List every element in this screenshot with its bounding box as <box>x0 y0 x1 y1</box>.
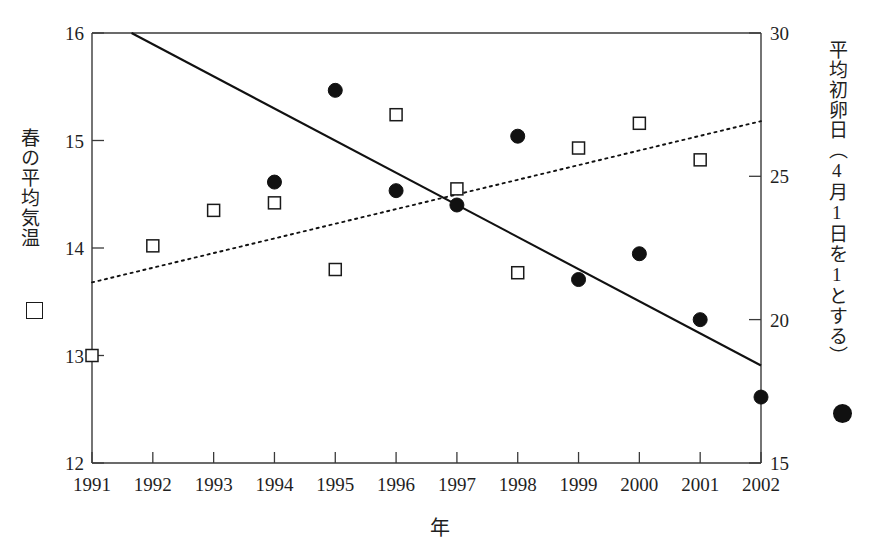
data-point-s0-2000 <box>633 117 645 129</box>
trendline-solid <box>132 33 761 366</box>
filled-circle-icon <box>833 404 852 423</box>
plot-frame <box>92 33 761 463</box>
x-tick-label-1996: 1996 <box>377 474 415 495</box>
data-point-s0-1995 <box>329 264 341 276</box>
left-tick-label-13: 13 <box>65 346 84 367</box>
data-point-s1-1997 <box>450 198 464 212</box>
data-point-s1-1998 <box>511 129 525 143</box>
data-point-s0-2001 <box>694 154 706 166</box>
data-point-s0-1991 <box>86 350 98 362</box>
trendline-dotted <box>92 121 761 282</box>
x-axis-title: 年 <box>0 512 879 541</box>
data-point-s1-1995 <box>328 83 342 97</box>
x-tick-label-1999: 1999 <box>560 474 598 495</box>
data-point-s0-1994 <box>268 197 280 209</box>
x-tick-label-1995: 1995 <box>316 474 354 495</box>
left-tick-label-16: 16 <box>65 23 84 44</box>
x-tick-label-2001: 2001 <box>681 474 719 495</box>
data-point-s1-2001 <box>693 313 707 327</box>
left-legend-open-square-icon <box>17 302 51 323</box>
data-point-s0-1993 <box>208 204 220 216</box>
left-axis-title: 春の平均気温 <box>18 128 38 248</box>
x-tick-label-1991: 1991 <box>73 474 111 495</box>
scatter-plot-svg: 16 15 14 13 12 30 25 20 15 1991199219931… <box>0 0 879 554</box>
right-tick-label-20: 20 <box>770 310 789 331</box>
right-tick-label-25: 25 <box>770 166 789 187</box>
data-markers-group <box>86 83 768 404</box>
data-point-s0-1998 <box>512 267 524 279</box>
right-axis-title: 平均初卵日（4月1日を1とする） <box>826 40 846 366</box>
data-point-s0-1992 <box>147 240 159 252</box>
left-axis-ticks: 16 15 14 13 12 <box>65 23 104 474</box>
x-axis-ticks: 1991199219931994199519961997199819992000… <box>73 452 780 495</box>
right-legend-filled-circle-icon <box>825 404 859 427</box>
x-tick-label-1993: 1993 <box>195 474 233 495</box>
trendlines-group <box>92 33 761 366</box>
data-point-s1-1999 <box>572 273 586 287</box>
right-tick-label-30: 30 <box>770 23 789 44</box>
x-tick-label-2000: 2000 <box>620 474 658 495</box>
chart-figure: 16 15 14 13 12 30 25 20 15 1991199219931… <box>0 0 879 554</box>
right-axis-ticks: 30 25 20 15 <box>749 23 789 474</box>
data-point-s0-1997 <box>451 183 463 195</box>
x-tick-label-1994: 1994 <box>255 474 294 495</box>
data-point-s1-2000 <box>632 247 646 261</box>
data-point-s1-1996 <box>389 184 403 198</box>
left-tick-label-12: 12 <box>65 453 84 474</box>
left-tick-label-14: 14 <box>65 238 85 259</box>
data-point-s1-2002 <box>754 390 768 404</box>
x-tick-label-1992: 1992 <box>134 474 172 495</box>
data-point-s0-1999 <box>573 142 585 154</box>
data-point-s0-1996 <box>390 109 402 121</box>
x-tick-label-2002: 2002 <box>742 474 780 495</box>
x-tick-label-1997: 1997 <box>438 474 476 495</box>
data-point-s1-1994 <box>267 175 281 189</box>
right-tick-label-15: 15 <box>770 453 789 474</box>
left-tick-label-15: 15 <box>65 131 84 152</box>
open-square-icon <box>26 302 43 319</box>
x-tick-label-1998: 1998 <box>499 474 537 495</box>
